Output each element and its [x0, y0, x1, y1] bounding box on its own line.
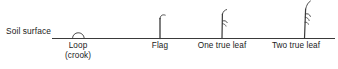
stage-label-loop: Loop: [50, 41, 106, 51]
stage-label-two-true-leaf: Two true leaf: [258, 41, 334, 51]
two-leaf-seedling-icon: [305, 1, 311, 39]
flag-seedling-icon: [160, 15, 165, 39]
crook-arch-icon: [73, 33, 85, 39]
seedling-stage-diagram: Soil surface Loop (crook) Flag One true …: [0, 0, 338, 69]
stage-label-flag: Flag: [136, 41, 184, 51]
stage-label-one-true-leaf: One true leaf: [186, 41, 258, 51]
soil-surface-label: Soil surface: [6, 27, 51, 37]
stage-sublabel-loop: (crook): [50, 51, 106, 61]
one-leaf-seedling-icon: [222, 10, 227, 39]
